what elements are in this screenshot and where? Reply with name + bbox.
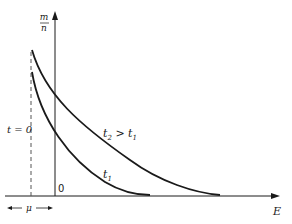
mu-label: μ (26, 203, 32, 213)
x-axis-label: E (272, 205, 281, 218)
y-axis (52, 11, 58, 196)
x-axis-arrow-icon (271, 193, 280, 199)
curve-t1-label: t1 (103, 168, 112, 183)
distribution-diagram: m n E 0 t = 0 t1 t2 > t1 μ (0, 0, 292, 224)
y-label-denominator: n (41, 23, 47, 33)
t0-label: t = 0 (7, 124, 33, 135)
curve-t2-label: t2 > t1 (103, 127, 137, 142)
origin-label: 0 (58, 183, 64, 194)
mu-offset-marker: μ (7, 203, 53, 213)
arrow-left-icon (7, 206, 12, 210)
curve-t2 (32, 50, 220, 195)
arrow-right-icon (48, 206, 53, 210)
y-label-numerator: m (40, 12, 49, 22)
y-axis-arrow-icon (52, 11, 58, 20)
y-axis-label: m n (40, 12, 49, 33)
